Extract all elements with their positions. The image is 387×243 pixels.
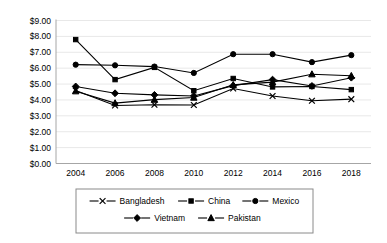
y-tick-label: $1.00 xyxy=(30,143,52,153)
y-axis-tick-labels: $0.00$1.00$2.00$3.00$4.00$5.00$6.00$7.00… xyxy=(30,16,52,169)
data-point-marker xyxy=(152,64,157,69)
y-tick-label: $7.00 xyxy=(30,47,52,57)
x-tick-label: 2008 xyxy=(145,168,164,178)
chart-legend: BangladeshChinaMexicoVietnamPakistan xyxy=(76,189,313,233)
data-point-marker xyxy=(270,52,275,57)
x-tick-label: 2018 xyxy=(342,168,361,178)
y-tick-label: $8.00 xyxy=(30,31,52,41)
data-point-marker xyxy=(113,77,117,81)
data-point-marker xyxy=(309,60,314,65)
data-point-marker xyxy=(134,215,141,222)
x-tick-label: 2004 xyxy=(66,168,85,178)
legend-item-mexico[interactable]: Mexico xyxy=(242,196,299,206)
data-point-marker xyxy=(191,70,196,75)
y-tick-label: $2.00 xyxy=(30,127,52,137)
legend-label: China xyxy=(208,196,230,206)
data-point-marker xyxy=(349,53,354,58)
y-tick-label: $6.00 xyxy=(30,63,52,73)
data-point-marker xyxy=(112,90,119,97)
data-point-marker xyxy=(253,198,258,203)
data-point-marker xyxy=(100,198,106,204)
x-axis-tick-labels: 20042006200820102012201420162018 xyxy=(66,168,361,178)
y-tick-label: $3.00 xyxy=(30,111,52,121)
data-point-marker xyxy=(73,62,78,67)
x-tick-label: 2006 xyxy=(106,168,125,178)
legend-item-pakistan[interactable]: Pakistan xyxy=(198,213,261,223)
series-lines xyxy=(76,40,352,106)
chart-canvas: $0.00$1.00$2.00$3.00$4.00$5.00$6.00$7.00… xyxy=(0,0,387,243)
legend-item-bangladesh[interactable]: Bangladesh xyxy=(90,196,165,206)
data-point-marker xyxy=(270,85,274,89)
y-tick-label: $5.00 xyxy=(30,79,52,89)
legend-item-china[interactable]: China xyxy=(178,196,230,206)
x-tick-label: 2012 xyxy=(224,168,243,178)
legend-label: Mexico xyxy=(272,196,299,206)
legend-label: Bangladesh xyxy=(120,196,165,206)
data-point-marker xyxy=(189,199,193,203)
data-point-marker xyxy=(349,87,353,91)
x-tick-label: 2014 xyxy=(263,168,282,178)
data-point-marker xyxy=(112,63,117,68)
data-point-marker xyxy=(231,76,235,80)
data-point-marker xyxy=(73,37,77,41)
y-tick-label: $0.00 xyxy=(30,159,52,169)
series-markers xyxy=(72,37,354,108)
y-tick-label: $4.00 xyxy=(30,95,52,105)
x-tick-label: 2016 xyxy=(302,168,321,178)
data-point-marker xyxy=(208,215,214,221)
y-tick-label: $9.00 xyxy=(30,16,52,26)
legend-item-vietnam[interactable]: Vietnam xyxy=(124,213,185,223)
legend-label: Pakistan xyxy=(228,213,261,223)
legend-label: Vietnam xyxy=(154,213,185,223)
line-chart: $0.00$1.00$2.00$3.00$4.00$5.00$6.00$7.00… xyxy=(0,0,387,243)
data-point-marker xyxy=(231,52,236,57)
x-tick-label: 2010 xyxy=(184,168,203,178)
